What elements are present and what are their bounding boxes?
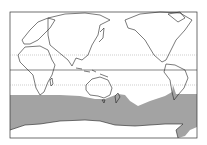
continents (18, 12, 192, 103)
indonesia (76, 68, 108, 77)
distribution-range (10, 85, 197, 138)
australia (86, 77, 112, 98)
africa (18, 46, 55, 95)
europe (22, 18, 55, 44)
greenland (168, 12, 185, 22)
asia (48, 13, 110, 66)
world-map (0, 0, 207, 145)
japan (99, 28, 104, 42)
